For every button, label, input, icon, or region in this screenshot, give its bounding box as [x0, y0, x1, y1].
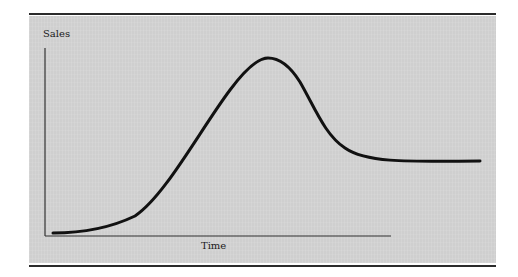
bottom-rule — [29, 265, 496, 267]
plot-area — [0, 0, 518, 277]
sales-curve — [53, 58, 480, 233]
